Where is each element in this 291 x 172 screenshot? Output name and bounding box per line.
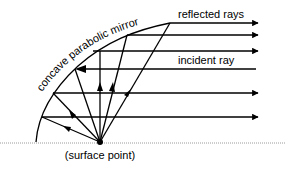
ray-to-mirror-1 <box>100 23 170 142</box>
incident-ray-arrowhead <box>75 65 86 73</box>
mirror-label-path: concave parabolic mirror <box>34 15 140 93</box>
surface-point-label: (surface point) <box>65 149 135 161</box>
mirror-label: concave parabolic mirror <box>34 15 140 93</box>
ray-to-mirror-6 <box>42 117 100 142</box>
incident-ray-label: incident ray <box>178 54 235 66</box>
ray-6-arrowhead <box>63 126 71 132</box>
ray-to-mirror-4 <box>75 69 100 142</box>
surface-point-marker <box>97 139 103 145</box>
mirror-diagram: concave parabolic mirror reflected rays … <box>0 0 291 172</box>
reflected-rays-label: reflected rays <box>178 8 245 20</box>
ray-3-arrowhead <box>97 82 103 91</box>
